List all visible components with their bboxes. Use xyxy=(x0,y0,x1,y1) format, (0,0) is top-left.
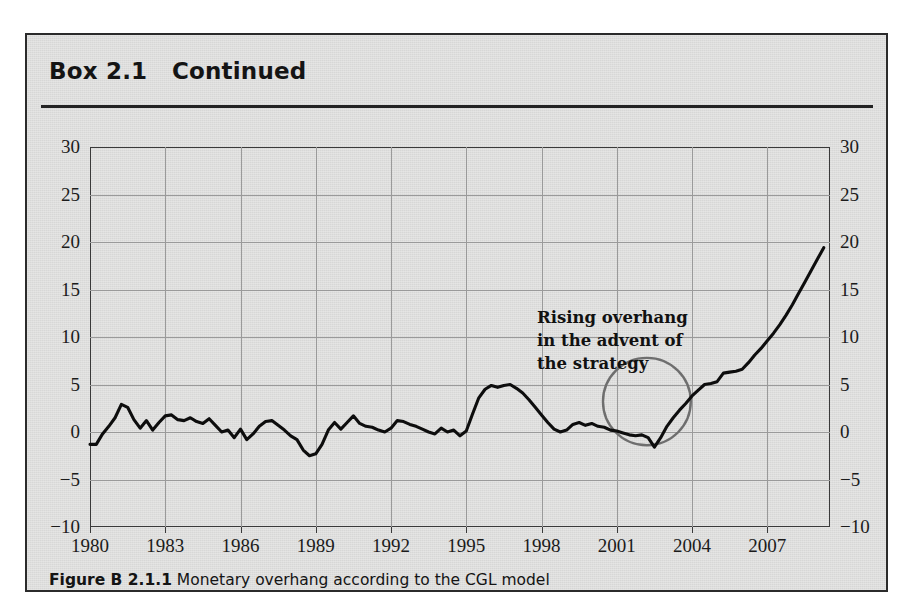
y-axis-tick-label-left: 10 xyxy=(61,327,80,346)
x-axis-tick-mark xyxy=(241,527,242,533)
x-axis-tick-mark xyxy=(767,527,768,533)
x-axis-tick-label: 1986 xyxy=(222,535,260,557)
y-axis-tick-label-left: 5 xyxy=(71,375,81,394)
y-axis-tick-label-right: 20 xyxy=(840,232,859,251)
series-line-chart xyxy=(90,147,830,527)
x-axis-tick-label: 2007 xyxy=(748,535,786,557)
x-axis-tick-mark xyxy=(692,527,693,533)
annotation-line-2: in the advent of xyxy=(537,330,688,353)
y-axis-tick-label-left: −10 xyxy=(50,517,80,536)
y-axis-tick-label-left: 30 xyxy=(61,137,80,156)
x-axis-tick-mark xyxy=(466,527,467,533)
y-axis-tick-label-right: −10 xyxy=(840,517,870,536)
title-divider xyxy=(41,105,873,108)
x-axis-tick-label: 1980 xyxy=(71,535,109,557)
box-container: Box 2.1 Continued 3030252520201515101055… xyxy=(25,33,888,592)
series-polyline xyxy=(90,248,824,456)
annotation-line-1: Rising overhang xyxy=(537,307,688,330)
chart-annotation: Rising overhang in the advent of the str… xyxy=(537,307,688,375)
y-axis-tick-label-left: −5 xyxy=(60,470,80,489)
y-axis-tick-label-left: 20 xyxy=(61,232,80,251)
y-axis-tick-label-right: 30 xyxy=(840,137,859,156)
figure-caption-label: Figure B 2.1.1 xyxy=(49,571,172,589)
figure-page: Box 2.1 Continued 3030252520201515101055… xyxy=(0,0,906,592)
figure-caption: Figure B 2.1.1 Monetary overhang accordi… xyxy=(49,571,879,589)
x-axis-tick-label: 1989 xyxy=(297,535,335,557)
y-axis-tick-label-right: 25 xyxy=(840,185,859,204)
y-axis-tick-label-right: −5 xyxy=(840,470,860,489)
figure-caption-text: Monetary overhang according to the CGL m… xyxy=(172,571,550,589)
y-axis-tick-label-left: 15 xyxy=(61,280,80,299)
x-axis-tick-mark xyxy=(391,527,392,533)
y-axis-tick-label-left: 25 xyxy=(61,185,80,204)
y-axis-tick-label-right: 0 xyxy=(840,422,850,441)
x-axis-tick-label: 1998 xyxy=(523,535,561,557)
y-axis-tick-label-right: 10 xyxy=(840,327,859,346)
x-axis-tick-label: 1995 xyxy=(447,535,485,557)
y-axis-tick-label-left: 0 xyxy=(71,422,81,441)
chart-area: 303025252020151510105500−5−5−10−10 19801… xyxy=(90,147,830,527)
y-axis-tick-label-right: 5 xyxy=(840,375,850,394)
x-axis-tick-label: 1992 xyxy=(372,535,410,557)
y-axis-tick-label-right: 15 xyxy=(840,280,859,299)
x-axis-tick-mark xyxy=(542,527,543,533)
x-axis-tick-mark xyxy=(90,527,91,533)
x-axis-tick-mark xyxy=(316,527,317,533)
x-axis-tick-mark xyxy=(617,527,618,533)
annotation-line-3: the strategy xyxy=(537,353,688,376)
box-title: Box 2.1 Continued xyxy=(49,58,307,84)
x-axis-tick-label: 2001 xyxy=(598,535,636,557)
x-axis-tick-label: 1983 xyxy=(146,535,184,557)
x-axis-tick-label: 2004 xyxy=(673,535,711,557)
x-axis-tick-mark xyxy=(165,527,166,533)
